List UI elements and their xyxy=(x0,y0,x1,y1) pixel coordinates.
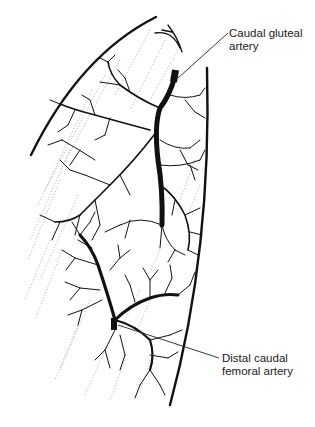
label-caudal-gluteal-artery: Caudal gluteal artery xyxy=(229,27,303,53)
label-line-2: femoral artery xyxy=(222,365,293,378)
label-line-1: Caudal gluteal xyxy=(229,27,303,40)
label-line-1: Distal caudal xyxy=(222,352,293,365)
caudal-gluteal-artery-tree xyxy=(40,55,205,262)
left-outline-curve xyxy=(31,17,156,155)
vessel-stump xyxy=(170,69,179,82)
main-trunk xyxy=(156,76,175,225)
label-line-2: artery xyxy=(229,40,303,53)
leader-caudal-gluteal xyxy=(178,33,228,78)
leader-distal-caudal-femoral xyxy=(118,325,219,358)
label-distal-caudal-femoral-artery: Distal caudal femoral artery xyxy=(222,352,293,378)
distal-caudal-femoral-artery-tree xyxy=(62,212,195,398)
top-hook-vessel xyxy=(155,25,182,52)
lower-trunk xyxy=(80,235,115,320)
